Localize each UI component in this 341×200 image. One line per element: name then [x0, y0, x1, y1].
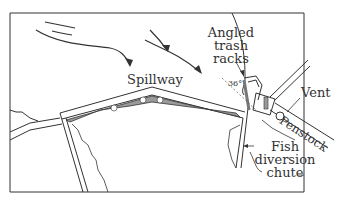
spillway-opening	[111, 105, 117, 111]
label-line: chute	[250, 166, 320, 179]
flow-arrows	[36, 22, 200, 72]
left-pier	[60, 113, 88, 192]
flow-arrow	[36, 30, 130, 65]
label-trash-racks: Angled trash racks	[196, 26, 266, 65]
chute-bank	[228, 125, 240, 168]
label-spillway: Spillway	[127, 73, 183, 86]
left-channel	[10, 118, 62, 140]
leader-vent	[287, 98, 300, 112]
trash-rack	[244, 80, 249, 110]
spillway-fill	[66, 96, 240, 122]
label-vent: Vent	[301, 86, 331, 99]
label-line: racks	[196, 52, 266, 65]
spillway-opening	[157, 97, 163, 103]
flow-line	[52, 31, 72, 35]
arrow-head	[194, 65, 202, 74]
spillway-opening	[140, 97, 146, 103]
flow-arrow	[145, 40, 200, 72]
left-bank	[10, 110, 38, 121]
arrow-head	[125, 58, 133, 67]
intake-gate	[264, 97, 268, 109]
label-angle: 36°	[228, 77, 242, 90]
spillway-dam	[60, 87, 245, 122]
flow-line	[45, 22, 75, 28]
label-fish-chute: Fish diversion chute	[250, 140, 320, 179]
arrow-head	[240, 70, 244, 77]
